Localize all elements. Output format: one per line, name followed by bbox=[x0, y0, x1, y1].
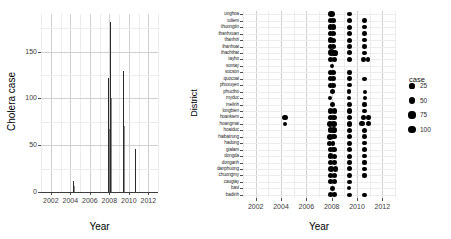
district-case-dot bbox=[331, 44, 336, 49]
gridline-district-row bbox=[243, 163, 395, 164]
district-tick-label: tayho bbox=[185, 56, 239, 61]
legend-size-dot bbox=[409, 83, 414, 88]
x-tick-label: 2008 bbox=[320, 203, 344, 210]
y-tickmark bbox=[240, 47, 243, 48]
gridline-minor-vertical bbox=[158, 14, 159, 192]
district-case-dot bbox=[332, 173, 337, 178]
timeseries-x-axis-title: Year bbox=[41, 221, 158, 232]
y-tickmark bbox=[240, 53, 243, 54]
gridline-district-row bbox=[243, 130, 395, 131]
district-tick-label: thanhtri bbox=[185, 37, 239, 42]
gridline-major-horizontal bbox=[41, 52, 158, 53]
y-tickmark bbox=[240, 163, 243, 164]
district-case-dot bbox=[332, 154, 337, 159]
district-case-dot bbox=[362, 102, 366, 106]
x-tickmark bbox=[332, 198, 333, 201]
district-case-dot bbox=[362, 44, 367, 49]
gridline-minor-vertical bbox=[139, 14, 140, 192]
district-case-dot bbox=[362, 51, 367, 56]
x-tickmark bbox=[281, 198, 282, 201]
district-tick-label: caugiay bbox=[185, 179, 239, 184]
gridline-district-row bbox=[243, 195, 395, 196]
district-case-dot bbox=[347, 154, 352, 159]
district-case-dot bbox=[362, 167, 367, 172]
district-case-dot bbox=[366, 115, 370, 119]
district-case-dot bbox=[347, 38, 352, 43]
district-case-dot bbox=[332, 108, 337, 113]
y-tickmark bbox=[240, 98, 243, 99]
gridline-district-row bbox=[243, 79, 395, 80]
figure-panel-pair: 200220042006200820102012 050100150 Chole… bbox=[0, 0, 451, 239]
district-tick-label: chuongmy bbox=[185, 172, 239, 177]
gridline-district-row bbox=[243, 27, 395, 28]
timeseries-spike-shoulder bbox=[135, 168, 136, 192]
district-case-dot bbox=[332, 50, 338, 56]
district-tick-label: thanhoai bbox=[185, 44, 239, 49]
district-case-dot bbox=[331, 141, 336, 146]
y-tickmark bbox=[240, 72, 243, 73]
legend-size-label: 50 bbox=[420, 97, 427, 104]
district-case-dot bbox=[331, 83, 336, 88]
y-tickmark bbox=[240, 85, 243, 86]
y-tick-label: 100 bbox=[17, 94, 37, 101]
gridline-minor-horizontal bbox=[41, 28, 158, 29]
district-case-dot bbox=[347, 141, 352, 146]
district-y-axis-title: District bbox=[189, 68, 199, 138]
gridline-district-row bbox=[243, 105, 395, 106]
district-case-dot bbox=[332, 192, 337, 197]
gridline-district-row bbox=[243, 98, 395, 99]
district-case-dot bbox=[331, 38, 336, 43]
district-case-dot bbox=[331, 70, 336, 75]
district-tick-label: thuongtin bbox=[185, 24, 239, 29]
y-tickmark bbox=[240, 117, 243, 118]
y-tickmark bbox=[240, 92, 243, 93]
gridline-major-vertical bbox=[70, 14, 71, 192]
y-tickmark bbox=[240, 175, 243, 176]
x-tick-label: 2012 bbox=[370, 203, 394, 210]
district-case-dot bbox=[362, 173, 366, 177]
timeseries-spike-shoulder bbox=[74, 186, 75, 192]
gridline-district-row bbox=[243, 53, 395, 54]
district-tick-label: unghoa bbox=[185, 11, 239, 16]
y-tickmark bbox=[38, 52, 41, 53]
gridline-district-row bbox=[243, 117, 395, 118]
y-tickmark bbox=[240, 150, 243, 151]
gridline-major-horizontal bbox=[41, 145, 158, 146]
legend-size-dot bbox=[408, 111, 415, 118]
gridline-district-row bbox=[243, 124, 395, 125]
x-tick-label: 2010 bbox=[345, 203, 369, 210]
district-case-dot bbox=[347, 121, 353, 127]
gridline-district-row bbox=[243, 182, 395, 183]
y-tickmark bbox=[240, 111, 243, 112]
y-tickmark bbox=[240, 137, 243, 138]
gridline-major-horizontal bbox=[41, 98, 158, 99]
district-tick-label: badinh bbox=[185, 192, 239, 197]
legend-size-label: 25 bbox=[420, 82, 427, 89]
x-tick-label: 2002 bbox=[244, 203, 268, 210]
district-tick-label: danphuong bbox=[185, 166, 239, 171]
district-case-dot bbox=[347, 102, 352, 107]
district-case-dot bbox=[363, 96, 367, 100]
gridline-district-row bbox=[243, 169, 395, 170]
district-case-dot bbox=[362, 77, 366, 81]
district-case-dot bbox=[330, 186, 335, 191]
y-tickmark bbox=[240, 34, 243, 35]
gridline-district-row bbox=[243, 21, 395, 22]
y-tickmark bbox=[240, 40, 243, 41]
gridline-minor-vertical bbox=[80, 14, 81, 192]
district-tick-label: thanhxuan bbox=[185, 31, 239, 36]
district-case-dot bbox=[361, 57, 366, 62]
y-tickmark bbox=[38, 145, 41, 146]
y-tickmark bbox=[38, 98, 41, 99]
gridline-district-row bbox=[243, 156, 395, 157]
district-case-dot bbox=[362, 31, 367, 36]
y-tickmark bbox=[240, 66, 243, 67]
gridline-district-row bbox=[243, 40, 395, 41]
y-tickmark bbox=[240, 169, 243, 170]
gridline-district-row bbox=[243, 143, 395, 144]
x-tickmark bbox=[382, 198, 383, 201]
x-tick-label: 2012 bbox=[136, 197, 160, 204]
gridline-district-row bbox=[243, 14, 395, 15]
gridline-district-row bbox=[243, 150, 395, 151]
district-case-dot bbox=[347, 193, 352, 198]
